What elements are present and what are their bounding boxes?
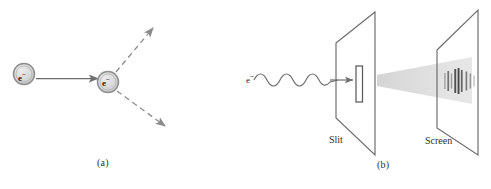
panel-a-group <box>14 28 166 126</box>
slit-aperture <box>356 66 363 102</box>
upper-scatter-arrow <box>116 28 153 72</box>
panel-b-caption: (b) <box>377 159 389 170</box>
screen-label: Screen <box>425 135 452 146</box>
electron-wave <box>254 74 338 86</box>
slit-label: Slit <box>329 134 343 145</box>
panel-a-caption: (a) <box>97 157 109 168</box>
panel-b-group <box>254 10 478 155</box>
target-electron-label: e− <box>102 76 110 88</box>
electron-beam-label: e− <box>246 73 254 85</box>
figure-root: e− e− e− Slit Screen (a) (b) <box>0 0 491 189</box>
figure-canvas <box>0 0 491 189</box>
lower-scatter-arrow <box>117 91 165 126</box>
incoming-electron-label: e− <box>18 71 26 83</box>
